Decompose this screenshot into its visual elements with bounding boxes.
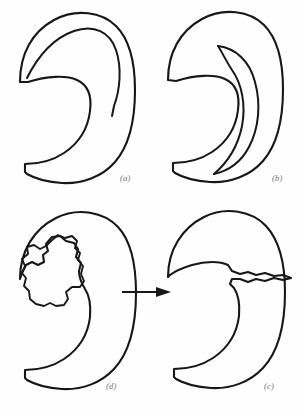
figure-root: (a) (b) (d) (c) <box>0 0 301 413</box>
panel-b-caption: (b) <box>272 173 283 183</box>
panel-d-interior-void <box>22 235 84 306</box>
panel-d-outer-contour <box>20 212 136 389</box>
panel-d-drawing <box>2 205 152 408</box>
panel-b-outer-contour <box>168 12 283 182</box>
panel-a-caption: (a) <box>120 173 131 183</box>
panel-c-caption: (c) <box>264 381 274 391</box>
panel-a-interior-arc <box>27 28 120 116</box>
panel-c <box>152 205 301 408</box>
panel-d-caption: (d) <box>106 381 117 391</box>
panel-b-drawing <box>152 4 301 194</box>
panel-b <box>152 4 301 194</box>
panel-b-inner-band-inner <box>214 46 244 174</box>
panel-c-outer-contour <box>168 211 291 388</box>
panel-c-drawing <box>152 205 301 408</box>
panel-b-inner-band-outer <box>214 46 258 174</box>
panel-a <box>2 4 152 194</box>
panel-d <box>2 205 152 408</box>
panel-a-drawing <box>2 4 152 194</box>
panel-a-outer-contour <box>20 13 135 183</box>
